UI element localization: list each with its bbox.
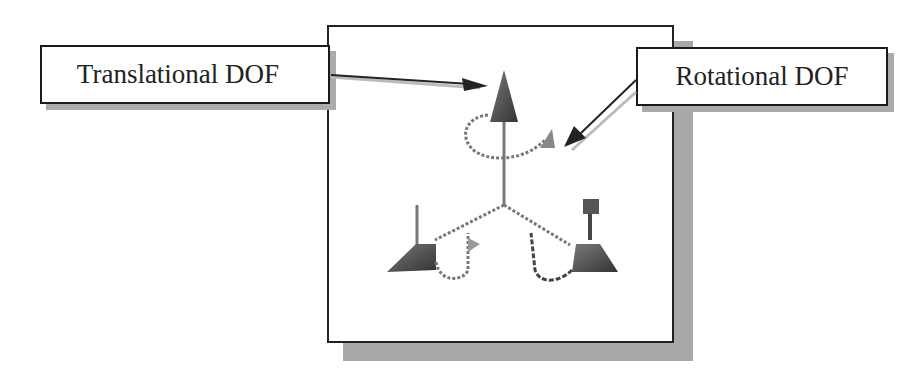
rotational-arrow-icon: [564, 80, 636, 150]
translational-arrow-icon: [331, 75, 488, 91]
triad-dof-symbol-icon: [0, 0, 923, 376]
